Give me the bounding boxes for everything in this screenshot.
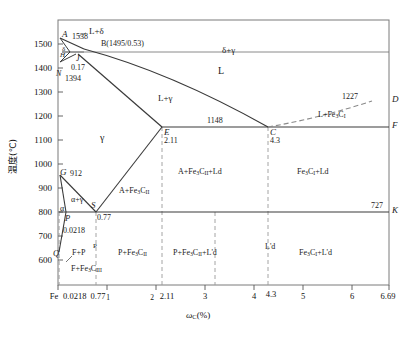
point-label-J: J	[76, 55, 80, 63]
region-label-L-gamma: L+γ	[158, 94, 173, 103]
y-tick-700: 700	[22, 231, 52, 241]
point-label-H: H	[60, 52, 65, 59]
y-tick-1400: 1400	[22, 63, 52, 73]
field-label-Ld: L'd	[265, 243, 275, 251]
region-label-L-delta: L+δ	[89, 27, 104, 36]
point-label-F: F	[392, 121, 398, 130]
field-label-F-Fe3C: F+Fe3CIII	[71, 265, 102, 274]
x-axis-ticks	[58, 285, 389, 290]
y-tick-1200: 1200	[22, 111, 52, 121]
phase-diagram-figure: 温度(℃) ωC(%) 1500 1400 1300 1200 1100 100…	[0, 0, 414, 338]
point-label-A: A	[62, 30, 68, 39]
annotation-0-0218: 0.0218	[63, 227, 85, 235]
annotation-1538: 1538	[72, 33, 88, 41]
annotation-1394: 1394	[65, 75, 81, 83]
field-label-P-Fe3C-Ld: P+Fe3CII+L'd	[173, 249, 217, 258]
x-tick-3: 3	[199, 291, 211, 301]
region-label-alpha: α	[60, 205, 64, 213]
region-label-gamma: γ	[100, 133, 104, 143]
y-tick-800: 800	[22, 207, 52, 217]
x-tick-1: 1	[102, 293, 114, 302]
field-label-Fe3C-Lprimed: Fe3CI+L'd	[299, 249, 332, 258]
point-label-N: N	[56, 70, 61, 78]
field-label-Fe3C-Ld: Fe3CI+Ld	[297, 168, 329, 177]
x-tick-4: 4	[248, 291, 260, 301]
annotation-1227: 1227	[342, 93, 358, 101]
annotation-2-11: 2.11	[164, 137, 178, 145]
y-tick-1500: 1500	[22, 39, 52, 49]
annotation-0-17: 0.17	[71, 64, 85, 72]
point-label-G: G	[60, 168, 67, 177]
plot-frame	[58, 20, 389, 285]
marker-P-eutectoid: P	[93, 243, 97, 250]
point-label-K: K	[392, 206, 398, 215]
annotation-1148: 1148	[207, 117, 223, 125]
x-tick-fe: Fe	[44, 291, 64, 301]
annotation-727: 727	[371, 202, 383, 210]
region-label-delta: δ	[62, 46, 65, 53]
point-label-P: P	[65, 214, 70, 223]
x-tick-6-69: 6.69	[374, 291, 402, 301]
field-label-A-Fe3C-Ld: A+Fe3CII+Ld	[178, 168, 222, 177]
annotation-B: B(1495/0.53)	[101, 40, 144, 48]
field-label-F-P: F+P	[72, 249, 85, 257]
x-tick-5: 5	[297, 291, 309, 301]
field-label-A-Fe3C: A+Fe3CII	[119, 187, 149, 196]
region-label-delta-gamma: δ+γ	[222, 46, 235, 55]
y-tick-1000: 1000	[22, 159, 52, 169]
y-tick-900: 900	[22, 183, 52, 193]
point-label-Q: Q	[53, 249, 59, 258]
annotation-0-77: 0.77	[97, 214, 111, 222]
x-tick-6: 6	[346, 291, 358, 301]
point-label-S: S	[91, 201, 96, 210]
y-tick-600: 600	[22, 255, 52, 265]
field-label-P-Fe3C: P+Fe3CII	[118, 249, 147, 258]
field-label-L-Fe3C: L+Fe3CI	[318, 111, 346, 120]
x-tick-4-3: 4.3	[261, 289, 281, 299]
region-label-alpha-gamma: α+γ	[71, 196, 83, 204]
y-tick-1100: 1100	[22, 135, 52, 145]
point-label-D: D	[392, 95, 399, 104]
y-axis-title: 温度(℃)	[6, 126, 19, 188]
region-label-L: L	[218, 66, 224, 76]
annotation-4-3: 4.3	[270, 137, 280, 145]
x-axis-title: ωC(%)	[186, 310, 210, 320]
annotation-912: 912	[70, 170, 82, 178]
x-tick-2-11: 2.11	[155, 291, 179, 301]
y-tick-1300: 1300	[22, 87, 52, 97]
